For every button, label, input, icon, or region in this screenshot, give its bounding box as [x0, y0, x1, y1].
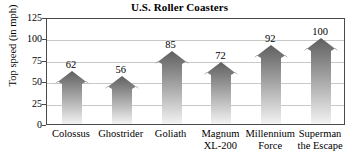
- bar-arrow-icon: [204, 62, 238, 124]
- bar-value-label: 92: [250, 33, 290, 44]
- bar-chart: U.S. Roller Coasters Top speed (in mph) …: [0, 0, 359, 158]
- bar: [55, 71, 89, 124]
- x-axis-category-label: Goliath: [143, 128, 199, 140]
- x-axis-category-label: Magnum XL-200: [193, 128, 249, 151]
- x-axis-category-label: Millennium Force: [242, 128, 298, 151]
- x-axis-category-label: Ghostrider: [93, 128, 149, 140]
- bar: [204, 62, 238, 124]
- bar-arrow-icon: [55, 71, 89, 124]
- bar-value-label: 85: [151, 39, 191, 50]
- y-axis-tick-label: 125: [2, 13, 42, 23]
- y-axis-tick-mark: [42, 125, 46, 126]
- y-axis-tick-label: 75: [2, 56, 42, 66]
- bar: [304, 38, 338, 124]
- y-axis-tick-label: 25: [2, 99, 42, 109]
- bar: [254, 45, 288, 124]
- bar-arrow-icon: [304, 38, 338, 124]
- bar-arrow-icon: [254, 45, 288, 124]
- y-axis-tick-label: 0: [2, 120, 42, 130]
- chart-title: U.S. Roller Coasters: [0, 1, 359, 13]
- bar-arrow-icon: [155, 51, 189, 124]
- bar: [155, 51, 189, 124]
- y-axis-tick-label: 100: [2, 34, 42, 44]
- x-axis-category-label: Colossus: [43, 128, 99, 140]
- bar-arrow-icon: [105, 76, 139, 124]
- bar-value-label: 56: [101, 64, 141, 75]
- bar-value-label: 72: [200, 50, 240, 61]
- bar-value-label: 62: [51, 59, 91, 70]
- bar: [105, 76, 139, 124]
- x-axis-category-label: Superman the Escape: [292, 128, 348, 151]
- y-axis-tick-label: 50: [2, 77, 42, 87]
- bar-value-label: 100: [300, 26, 340, 37]
